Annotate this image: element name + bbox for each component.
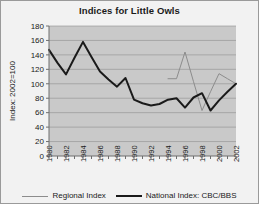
plot-area: 020406080100120140160180 198019821984198…	[1, 1, 259, 204]
x-tick-label: 1986	[96, 145, 105, 162]
legend-item-regional: Regional Index	[22, 192, 105, 200]
legend-item-national: National Index: CBC/BBS	[116, 192, 237, 200]
y-tick-label: 60	[35, 108, 44, 117]
y-tick-label: 180	[31, 22, 45, 31]
x-tick-label: 1982	[62, 145, 71, 162]
x-tick-label: 1984	[79, 145, 88, 162]
legend-line-national-icon	[116, 195, 142, 197]
legend-label-national: National Index: CBC/BBS	[146, 192, 237, 200]
y-axis-title: Index: 2002=100	[8, 61, 17, 121]
x-tick-label: 1998	[198, 145, 207, 162]
y-tick-label: 0	[40, 152, 45, 161]
x-tick-label: 1992	[147, 145, 156, 162]
y-tick-label: 160	[31, 36, 45, 45]
x-tick-label: 1988	[113, 145, 122, 162]
plot-background	[49, 26, 236, 156]
x-tick-label: 1990	[130, 145, 139, 162]
x-tick-label: 2000	[215, 145, 224, 162]
x-tick-label: 1996	[181, 145, 190, 162]
legend-line-regional-icon	[22, 196, 48, 197]
legend-label-regional: Regional Index	[52, 192, 105, 200]
x-tick-label: 1994	[164, 145, 173, 162]
y-tick-label: 80	[35, 94, 44, 103]
svg-text:Index: 2002=100: Index: 2002=100	[8, 61, 17, 121]
y-tick-label: 140	[31, 51, 45, 60]
x-tick-label: 2002	[232, 145, 241, 162]
y-tick-label: 120	[31, 65, 45, 74]
y-tick-label: 40	[35, 123, 44, 132]
y-tick-label: 100	[31, 80, 45, 89]
chart-container: Indices for Little Owls 0204060801001201…	[0, 0, 259, 204]
y-tick-labels: 020406080100120140160180	[31, 22, 45, 161]
chart-legend: Regional Index National Index: CBC/BBS	[1, 192, 258, 200]
y-tick-label: 20	[35, 137, 44, 146]
